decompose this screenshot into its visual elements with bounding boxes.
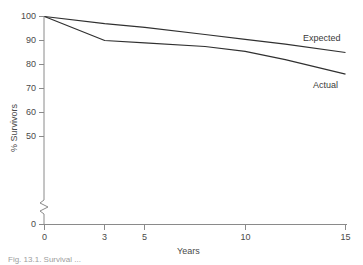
y-tick-label-0: 0 bbox=[8, 220, 36, 229]
x-tick-label-0: 0 bbox=[32, 233, 57, 242]
y-tick-label-80: 80 bbox=[8, 60, 36, 69]
x-tick-label-15: 15 bbox=[333, 233, 358, 242]
series-line-actual bbox=[45, 17, 346, 75]
x-tick-label-3: 3 bbox=[92, 233, 117, 242]
y-tick-label-100: 100 bbox=[8, 12, 36, 21]
x-axis-title: Years bbox=[177, 247, 200, 256]
figure-caption: Fig. 13.1. Survival ... bbox=[8, 256, 358, 265]
series-label-expected: Expected bbox=[303, 34, 341, 43]
y-axis-break-zigzag bbox=[40, 200, 48, 214]
x-tick-label-10: 10 bbox=[233, 233, 258, 242]
figure-container: 100 90 80 70 60 50 0 0 3 5 10 15 % Survi… bbox=[0, 0, 363, 265]
series-label-actual: Actual bbox=[313, 81, 338, 90]
y-tick-label-70: 70 bbox=[8, 84, 36, 93]
y-axis-title: % Survivors bbox=[10, 104, 19, 152]
y-tick-label-90: 90 bbox=[8, 36, 36, 45]
x-tick-label-5: 5 bbox=[132, 233, 157, 242]
